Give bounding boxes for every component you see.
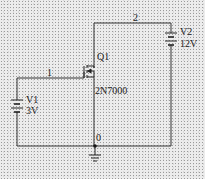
node-0-label: 0 xyxy=(96,133,101,143)
node-2-label: 2 xyxy=(133,13,138,23)
wire-v2-to-ground[interactable] xyxy=(95,49,171,146)
q1-ref-label: Q1 xyxy=(97,52,109,62)
battery-v1-icon[interactable] xyxy=(11,100,23,114)
mosfet-q1-icon[interactable] xyxy=(84,65,94,78)
wire-ground-to-v1[interactable] xyxy=(17,114,95,146)
v2-ref-label: V2 xyxy=(180,27,192,37)
v2-value-label: 12V xyxy=(180,39,197,49)
v1-ref-label: V1 xyxy=(26,95,38,105)
ground-icon[interactable] xyxy=(89,146,101,161)
q1-model-label: 2N7000 xyxy=(95,86,127,96)
v1-value-label: 3V xyxy=(26,106,38,116)
node-1-label: 1 xyxy=(47,68,52,78)
schematic-canvas: 2 1 0 Q1 2N7000 V2 12V V1 3V xyxy=(0,0,205,179)
battery-v2-icon[interactable] xyxy=(165,33,177,49)
